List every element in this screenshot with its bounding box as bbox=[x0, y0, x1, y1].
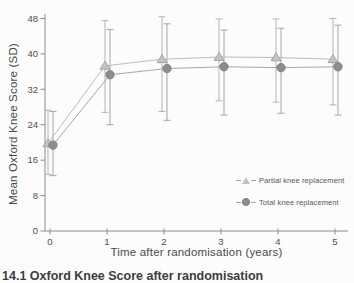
legend-item-partial: Partial knee replacement bbox=[236, 175, 344, 185]
total-data-point bbox=[277, 63, 285, 71]
y-axis-title: Mean Oxford Knee Score (SD) bbox=[7, 18, 23, 230]
total-error-bar bbox=[221, 30, 228, 115]
total-data-point bbox=[334, 63, 342, 71]
legend-line-segment bbox=[236, 202, 241, 203]
total-series-marker-icon bbox=[236, 198, 256, 206]
y-tick-label: 8 bbox=[33, 190, 38, 201]
x-axis-title: Time after randomisation (years) bbox=[45, 246, 348, 258]
legend-label-total: Total knee replacement bbox=[259, 198, 339, 207]
y-tick-label: 16 bbox=[27, 154, 38, 165]
partial-error-bar bbox=[159, 17, 166, 112]
total-data-point bbox=[220, 63, 228, 71]
legend-label-partial: Partial knee replacement bbox=[259, 176, 344, 185]
y-tick-label: 0 bbox=[33, 225, 38, 236]
total-data-point bbox=[106, 71, 114, 79]
partial-data-point bbox=[214, 52, 224, 60]
total-data-point bbox=[49, 141, 57, 149]
y-tick-label: 32 bbox=[27, 84, 38, 95]
legend-item-total: Total knee replacement bbox=[236, 197, 339, 207]
legend-line-segment bbox=[251, 202, 256, 203]
circle-marker-icon bbox=[242, 198, 250, 206]
y-tick-label: 24 bbox=[27, 119, 38, 130]
legend-line-segment bbox=[251, 180, 256, 181]
y-tick-label: 40 bbox=[27, 48, 38, 59]
figure-caption-fragment: 14.1 Oxford Knee Score after randomisati… bbox=[2, 269, 263, 283]
y-tick-label: 48 bbox=[27, 13, 38, 24]
partial-series-line bbox=[48, 57, 333, 143]
partial-series-marker-icon bbox=[236, 177, 256, 184]
total-data-point bbox=[163, 64, 171, 72]
legend-line-segment bbox=[236, 180, 241, 181]
triangle-marker-icon bbox=[242, 177, 250, 184]
partial-data-point bbox=[271, 53, 281, 61]
